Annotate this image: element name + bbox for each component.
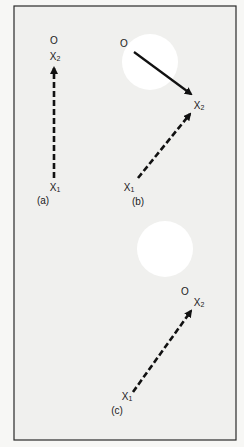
panel-a-x1-label: X1 — [50, 183, 61, 193]
figure: O X2 X1 (a) O X2 X1 (b) O X2 X1 (c) — [0, 0, 244, 447]
blob-b — [122, 34, 178, 90]
figure-canvas — [0, 0, 244, 447]
panel-b-x1-label: X1 — [124, 183, 135, 193]
panel-a-origin-label: O — [50, 36, 58, 46]
panel-b-caption: (b) — [132, 197, 144, 207]
panel-c-x2-label: X2 — [194, 298, 205, 308]
panel-b-x2-label: X2 — [194, 101, 205, 111]
panel-c-caption: (c) — [111, 406, 123, 416]
panel-a-caption: (a) — [37, 196, 49, 206]
panel-c-x1-label: X1 — [122, 392, 133, 402]
panel-a-x2-label: X2 — [50, 52, 61, 62]
panel-b-origin-label: O — [120, 39, 128, 49]
blob-c — [137, 221, 193, 277]
panel-c-origin-label: O — [181, 287, 189, 297]
